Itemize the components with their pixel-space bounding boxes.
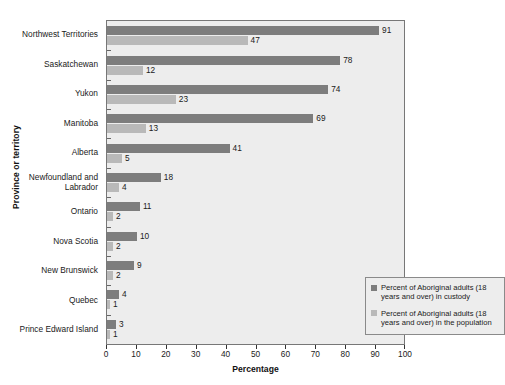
bar-value-label: 1 (113, 300, 118, 309)
bar-groups: 9147781274236913415184112102924131 (107, 21, 404, 344)
bar-row-population: 1 (107, 300, 404, 309)
category-label: Alberta (72, 148, 98, 158)
category-label: Prince Edward Island (20, 325, 98, 335)
bar-group: 112 (107, 197, 404, 226)
bar-population[interactable] (107, 300, 110, 309)
bar-custody[interactable] (107, 232, 137, 241)
category-label-row: Newfoundland and Labrador (0, 168, 102, 198)
bar-row-custody: 4 (107, 290, 404, 299)
bar-custody[interactable] (107, 114, 313, 123)
category-label-row: Nova Scotia (0, 227, 102, 257)
bar-row-custody: 74 (107, 85, 404, 94)
bar-row-population: 2 (107, 212, 404, 221)
bar-row-custody: 91 (107, 26, 404, 35)
chart-legend: Percent of Aboriginal adults (18 years a… (365, 277, 505, 335)
bar-row-population: 23 (107, 95, 404, 104)
x-axis: 0102030405060708090100 (106, 345, 405, 357)
x-axis-tick-label: 40 (221, 349, 230, 359)
bar-row-population: 12 (107, 66, 404, 75)
category-label: Nova Scotia (53, 237, 98, 247)
bar-value-label: 1 (113, 330, 118, 339)
bar-row-population: 2 (107, 271, 404, 280)
bar-custody[interactable] (107, 85, 328, 94)
bar-value-label: 4 (122, 290, 127, 299)
legend-label: Percent of Aboriginal adults (18 years a… (381, 283, 499, 302)
bar-group: 9147 (107, 21, 404, 50)
bar-value-label: 13 (149, 124, 158, 133)
category-label-row: Yukon (0, 79, 102, 109)
legend-label: Percent of Aboriginal adults (18 years a… (381, 309, 499, 328)
category-label-row: Prince Edward Island (0, 315, 102, 345)
bar-row-custody: 10 (107, 232, 404, 241)
bar-value-label: 47 (251, 36, 260, 45)
bar-custody[interactable] (107, 173, 161, 182)
x-axis-tick-label: 80 (341, 349, 350, 359)
bar-group: 184 (107, 168, 404, 197)
bar-group: 7812 (107, 50, 404, 79)
bar-population[interactable] (107, 124, 146, 133)
bar-row-population: 47 (107, 36, 404, 45)
bar-custody[interactable] (107, 320, 116, 329)
plot-area: 9147781274236913415184112102924131 Perce… (106, 20, 405, 345)
bar-population[interactable] (107, 66, 143, 75)
x-axis-tick-label: 70 (311, 349, 320, 359)
category-label-row: Quebec (0, 286, 102, 316)
bar-group: 415 (107, 138, 404, 167)
bar-custody[interactable] (107, 202, 140, 211)
bar-value-label: 41 (233, 144, 242, 153)
category-label: New Brunswick (41, 266, 98, 276)
category-label-row: Northwest Territories (0, 20, 102, 50)
bar-population[interactable] (107, 183, 119, 192)
bar-row-population: 5 (107, 154, 404, 163)
category-label: Ontario (71, 207, 98, 217)
bar-value-label: 23 (179, 95, 188, 104)
bar-value-label: 12 (146, 66, 155, 75)
bar-population[interactable] (107, 330, 110, 339)
bar-value-label: 5 (125, 154, 130, 163)
x-axis-title: Percentage (106, 364, 405, 374)
bar-value-label: 9 (137, 261, 142, 270)
bar-population[interactable] (107, 154, 122, 163)
bar-row-custody: 11 (107, 202, 404, 211)
bar-value-label: 74 (331, 85, 340, 94)
bar-population[interactable] (107, 242, 113, 251)
category-label: Manitoba (64, 119, 98, 129)
bar-row-custody: 18 (107, 173, 404, 182)
bar-row-custody: 41 (107, 144, 404, 153)
category-label-row: Manitoba (0, 109, 102, 139)
bar-value-label: 4 (122, 183, 127, 192)
bar-row-custody: 69 (107, 114, 404, 123)
x-axis-tick-label: 0 (104, 349, 109, 359)
legend-swatch-population (371, 310, 377, 316)
bar-population[interactable] (107, 212, 113, 221)
bar-group: 41 (107, 285, 404, 314)
category-label-row: New Brunswick (0, 256, 102, 286)
bar-group: 31 (107, 315, 404, 344)
bar-custody[interactable] (107, 290, 119, 299)
y-axis-category-labels: Northwest TerritoriesSaskatchewanYukonMa… (0, 20, 102, 345)
x-axis-tick-label: 30 (191, 349, 200, 359)
bar-row-population: 4 (107, 183, 404, 192)
bar-row-population: 2 (107, 242, 404, 251)
bar-population[interactable] (107, 95, 176, 104)
bar-custody[interactable] (107, 56, 340, 65)
bar-row-custody: 3 (107, 320, 404, 329)
bar-custody[interactable] (107, 144, 230, 153)
bar-custody[interactable] (107, 26, 379, 35)
legend-item[interactable]: Percent of Aboriginal adults (18 years a… (371, 283, 499, 302)
bar-population[interactable] (107, 271, 113, 280)
x-axis-tick-label: 90 (370, 349, 379, 359)
category-label: Yukon (75, 89, 98, 99)
bar-group: 7423 (107, 80, 404, 109)
bar-value-label: 2 (116, 212, 121, 221)
x-axis-tick-label: 60 (281, 349, 290, 359)
legend-item[interactable]: Percent of Aboriginal adults (18 years a… (371, 309, 499, 328)
x-axis-tick-label: 50 (251, 349, 260, 359)
bar-value-label: 11 (143, 202, 152, 211)
bar-row-custody: 9 (107, 261, 404, 270)
bar-population[interactable] (107, 36, 248, 45)
bar-group: 6913 (107, 109, 404, 138)
x-axis-tick-label: 20 (161, 349, 170, 359)
bar-custody[interactable] (107, 261, 134, 270)
